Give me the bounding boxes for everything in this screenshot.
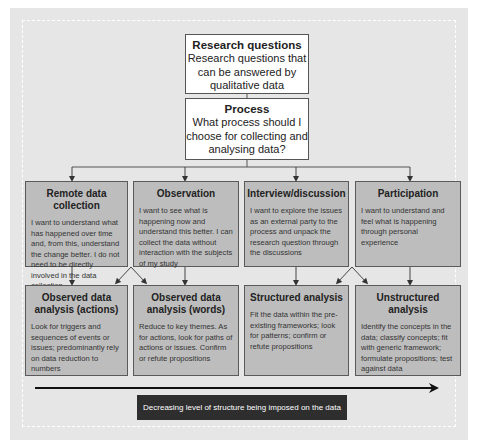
observation-box: Observation I want to see what is happen…	[133, 181, 239, 267]
box-description: I want to understand what has happened o…	[26, 218, 127, 292]
box-title: Interview/discussion	[247, 188, 346, 200]
box-title: Unstructured analysis	[358, 292, 458, 316]
research-questions-title: Research questions	[186, 38, 308, 52]
box-description: I want to explore the issues as an exter…	[245, 206, 348, 259]
process-title: Process	[186, 102, 308, 116]
box-description: I want to understand and feel what is ha…	[356, 206, 460, 248]
unstructured-analysis-box: Unstructured analysis Identify the conce…	[355, 285, 461, 376]
axis-label: Decreasing level of structure being impo…	[137, 395, 347, 420]
box-description: Look for triggers and sequences of event…	[26, 322, 127, 375]
research-questions-description: Research questions that can be answered …	[186, 52, 308, 93]
process-box: Process What process should I choose for…	[185, 98, 309, 160]
box-title: Observed data analysis (words)	[136, 292, 236, 316]
box-title: Remote data collection	[28, 188, 125, 212]
box-description: Fit the data within the pre-existing fra…	[245, 310, 348, 352]
box-title: Participation	[358, 188, 458, 200]
process-description: What process should I choose for collect…	[186, 116, 308, 157]
observed-data-analysis-words-box: Observed data analysis (words) Reduce to…	[133, 285, 239, 376]
box-title: Structured analysis	[247, 292, 346, 304]
box-description: Reduce to key themes. As for actions, lo…	[134, 322, 238, 364]
structured-analysis-box: Structured analysis Fit the data within …	[244, 285, 349, 376]
interview-discussion-box: Interview/discussion I want to explore t…	[244, 181, 349, 267]
box-title: Observed data analysis (actions)	[28, 292, 125, 316]
box-description: I want to see what is happening now and …	[134, 206, 238, 269]
research-questions-box: Research questions Research questions th…	[185, 34, 309, 94]
box-title: Observation	[136, 188, 236, 200]
participation-box: Participation I want to understand and f…	[355, 181, 461, 267]
observed-data-analysis-actions-box: Observed data analysis (actions) Look fo…	[25, 285, 128, 376]
remote-data-collection-box: Remote data collection I want to underst…	[25, 181, 128, 267]
box-description: Identify the concepts in the data; class…	[356, 322, 460, 375]
